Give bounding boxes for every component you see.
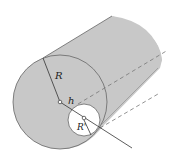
label-offset: h [68,95,74,106]
cylinder-diagram [0,0,180,162]
outer-center-point [58,100,62,104]
diagram-canvas: R h R' [0,0,180,162]
label-inner-radius: R' [77,122,86,132]
label-outer-radius: R [55,70,63,81]
inner-center-point [82,116,86,120]
